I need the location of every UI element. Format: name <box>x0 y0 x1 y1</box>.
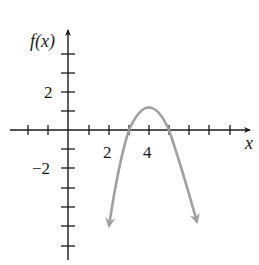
y-axis-label: f(x) <box>30 31 55 52</box>
x-axis-label: x <box>244 133 253 153</box>
y-tick-label-neg2: −2 <box>32 159 50 178</box>
y-tick-label-2: 2 <box>44 83 53 102</box>
x-tick-label-4: 4 <box>143 143 152 162</box>
function-graph: f(x) x 2 4 2 −2 <box>0 0 259 265</box>
parabola-right-branch <box>169 130 197 222</box>
x-tick-label-2: 2 <box>103 143 112 162</box>
parabola-left-branch <box>109 130 129 226</box>
